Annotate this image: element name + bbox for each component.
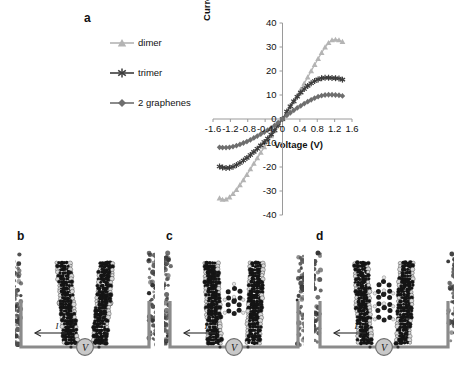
- y-tick-label: -40: [263, 209, 277, 220]
- device-schematic-d: VI: [314, 243, 454, 361]
- x-tick-label: -1.6: [205, 123, 221, 134]
- y-tick-label: -30: [263, 185, 277, 196]
- x-tick-label: 1.6: [345, 123, 358, 134]
- graphene-sheet: [394, 260, 415, 346]
- panel-letter-b: b: [17, 230, 24, 242]
- device-schematic-b: VI: [15, 243, 155, 361]
- x-tick-label: -1.2: [222, 123, 238, 134]
- bridging-molecule: [373, 276, 395, 323]
- x-tick-label: -0.8: [240, 123, 256, 134]
- y-tick-label: 40: [266, 17, 277, 28]
- y-tick-label: 20: [266, 65, 277, 76]
- y-tick-label: 30: [266, 41, 277, 52]
- graphene-sheet: [91, 261, 115, 346]
- chart-panel: a dimer: [0, 0, 465, 226]
- x-tick-label: 0: [280, 123, 285, 134]
- x-tick-label: 1.2: [328, 123, 341, 134]
- figure-root: a dimer: [0, 0, 465, 366]
- current-label: I: [55, 321, 60, 331]
- chart-plot-area: -40-30-20-10010203040-1.6-1.2-0.8-0.400.…: [0, 0, 465, 226]
- y-tick-label: -10: [263, 137, 277, 148]
- panel-letter-c: c: [166, 230, 173, 242]
- graphene-sheet: [245, 261, 266, 346]
- y-tick-label: 10: [266, 89, 277, 100]
- device-schematic-c: VI: [164, 243, 304, 361]
- x-tick-label: -0.4: [257, 123, 273, 134]
- y-tick-label: -20: [263, 161, 277, 172]
- panel-letter-d: d: [316, 230, 323, 242]
- x-tick-label: 0.8: [311, 123, 324, 134]
- bridging-molecule: [223, 282, 245, 316]
- x-tick-label: 0.4: [293, 123, 306, 134]
